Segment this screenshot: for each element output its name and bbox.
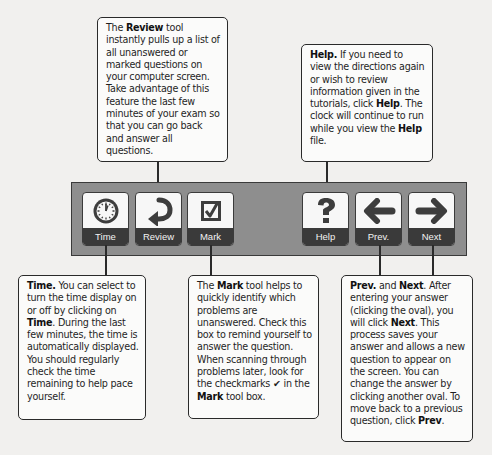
help-button[interactable]: Help — [302, 192, 349, 246]
mark-button[interactable]: Mark — [187, 192, 234, 246]
time-button-label: Time — [83, 228, 128, 245]
help-button-label: Help — [303, 228, 348, 245]
mark-connector — [210, 245, 212, 276]
left-arrow-icon — [362, 198, 396, 224]
time-button[interactable]: Time — [82, 192, 129, 246]
checkbox-icon — [198, 198, 224, 224]
review-callout: The Review tool instantly pulls up a lis… — [97, 17, 228, 162]
help-callout: Help. If you need to view the directions… — [301, 44, 433, 162]
right-arrow-icon — [415, 198, 449, 224]
prev-button[interactable]: Prev. — [355, 192, 402, 246]
mark-callout: The Mark tool helps to quickly identify … — [188, 275, 319, 419]
return-arrow-icon — [144, 196, 174, 226]
prev-button-label: Prev. — [356, 228, 401, 245]
time-connector — [105, 245, 107, 276]
mark-button-label: Mark — [188, 228, 233, 245]
question-mark-icon — [312, 196, 340, 226]
next-connector — [432, 245, 434, 276]
time-callout: Time. You can select to turn the time di… — [18, 275, 146, 420]
prev-next-callout: Prev. and Next. After entering your answ… — [341, 275, 473, 442]
next-button[interactable]: Next — [408, 192, 455, 246]
prev-connector — [379, 245, 381, 276]
review-button-label: Review — [136, 228, 181, 245]
review-button[interactable]: Review — [135, 192, 182, 246]
clock-icon — [92, 197, 120, 225]
exam-toolbar-diagram: The Review tool instantly pulls up a lis… — [0, 0, 492, 455]
next-button-label: Next — [409, 228, 454, 245]
